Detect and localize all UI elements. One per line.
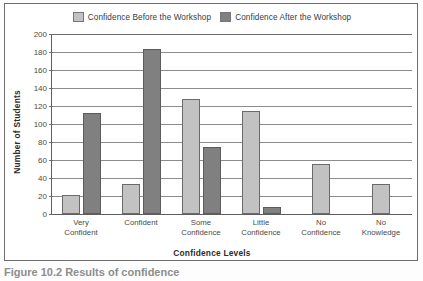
legend-swatch-after-icon bbox=[220, 12, 231, 22]
bar-group-little-confidence bbox=[231, 34, 291, 214]
ytick-label-20: 20 bbox=[38, 192, 52, 201]
x-axis-category-labels: VeryConfident Confident SomeConfidence L… bbox=[51, 218, 411, 238]
y-axis-title: Number of Students bbox=[10, 66, 24, 198]
bar-before-very-confident[interactable] bbox=[62, 195, 80, 214]
category-label-little-confidence: LittleConfidence bbox=[231, 218, 291, 238]
ytick-label-140: 140 bbox=[34, 84, 52, 93]
chart-legend: Confidence Before the Workshop Confidenc… bbox=[5, 9, 419, 25]
bar-group-some-confidence bbox=[171, 34, 231, 214]
y-axis-title-text: Number of Students bbox=[12, 90, 22, 174]
ytick-label-60: 60 bbox=[38, 156, 52, 165]
ytick-label-200: 200 bbox=[34, 30, 52, 39]
ytick-label-40: 40 bbox=[38, 174, 52, 183]
bar-group-no-knowledge bbox=[351, 34, 411, 214]
bar-before-little-confidence[interactable] bbox=[242, 111, 260, 214]
bar-after-confident[interactable] bbox=[143, 49, 161, 214]
bar-before-no-knowledge[interactable] bbox=[372, 184, 390, 214]
bar-after-very-confident[interactable] bbox=[83, 113, 101, 214]
legend-label-before: Confidence Before the Workshop bbox=[88, 13, 211, 22]
ytick-label-180: 180 bbox=[34, 48, 52, 57]
gridline-0: 0 bbox=[52, 214, 412, 215]
bar-group-confident bbox=[111, 34, 171, 214]
legend-swatch-before-icon bbox=[73, 12, 84, 22]
ytick-label-160: 160 bbox=[34, 66, 52, 75]
legend-label-after: Confidence After the Workshop bbox=[235, 13, 351, 22]
x-axis-title: Confidence Levels bbox=[5, 248, 419, 258]
ytick-label-100: 100 bbox=[34, 120, 52, 129]
bar-before-some-confidence[interactable] bbox=[182, 99, 200, 214]
ytick-label-80: 80 bbox=[38, 138, 52, 147]
category-label-some-confidence: SomeConfidence bbox=[171, 218, 231, 238]
ytick-label-120: 120 bbox=[34, 102, 52, 111]
bar-group-no-confidence bbox=[291, 34, 351, 214]
bar-series-container bbox=[51, 34, 411, 214]
category-label-very-confident: VeryConfident bbox=[51, 218, 111, 238]
category-label-confident: Confident bbox=[111, 218, 171, 238]
bar-before-confident[interactable] bbox=[122, 184, 140, 214]
legend-entry-after: Confidence After the Workshop bbox=[220, 12, 351, 22]
bar-after-little-confidence[interactable] bbox=[263, 207, 281, 214]
chart-frame: Confidence Before the Workshop Confidenc… bbox=[4, 3, 418, 261]
category-label-no-confidence: NoConfidence bbox=[291, 218, 351, 238]
category-label-no-knowledge: NoKnowledge bbox=[351, 218, 411, 238]
figure-caption: Figure 10.2 Results of confidence bbox=[4, 266, 304, 280]
bar-before-no-confidence[interactable] bbox=[312, 164, 330, 214]
bar-after-some-confidence[interactable] bbox=[203, 147, 221, 215]
figure-container: Confidence Before the Workshop Confidenc… bbox=[0, 0, 423, 281]
bar-group-very-confident bbox=[51, 34, 111, 214]
legend-entry-before: Confidence Before the Workshop bbox=[73, 12, 211, 22]
